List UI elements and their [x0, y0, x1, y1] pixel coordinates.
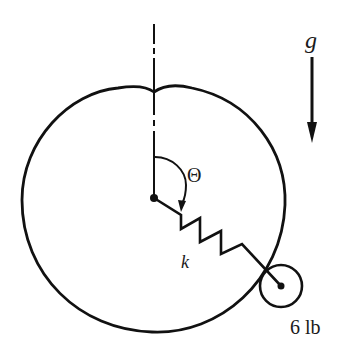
- angle-arc: [155, 157, 186, 204]
- spring-constant-label: k: [181, 253, 189, 271]
- angle-label: Θ: [187, 165, 201, 185]
- gravity-label: g: [305, 28, 317, 52]
- mass-center-dot: [278, 283, 285, 290]
- angle-arrowhead-icon: [178, 200, 186, 212]
- diagram-canvas: [0, 0, 350, 359]
- mass-label: 6 lb: [290, 317, 321, 337]
- spring: [154, 198, 281, 286]
- gravity-arrowhead-icon: [307, 122, 317, 143]
